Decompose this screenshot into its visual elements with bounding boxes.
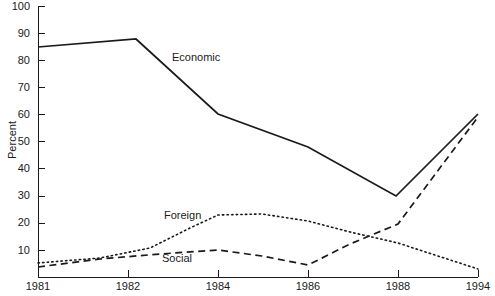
series-line-foreign (38, 214, 478, 269)
y-axis-ticks (38, 6, 45, 250)
series-line-social (38, 117, 478, 267)
series-line-economic (38, 39, 478, 196)
x-axis-ticks (38, 270, 478, 277)
